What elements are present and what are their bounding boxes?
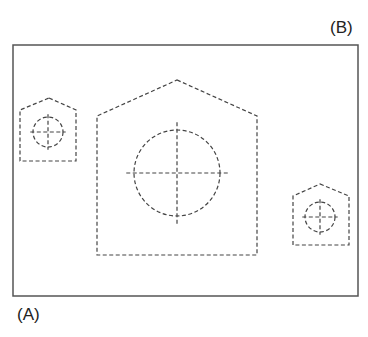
label-a: (A) <box>17 306 40 323</box>
pentagon-outline <box>97 80 257 255</box>
outer-frame <box>13 45 358 296</box>
large-pentagon-center <box>97 80 257 255</box>
small-pentagon-left <box>20 98 76 161</box>
small-pentagon-right <box>293 184 349 245</box>
label-b: (B) <box>330 19 353 36</box>
pentagon-outline <box>293 184 349 245</box>
diagram-canvas <box>0 0 368 337</box>
